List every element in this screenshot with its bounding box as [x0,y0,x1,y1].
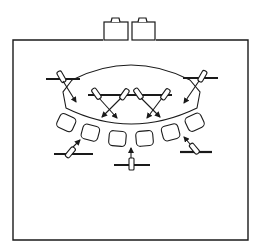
fixture [65,140,80,159]
seat [55,112,77,133]
fixture [91,87,117,118]
top-box-right [132,18,155,40]
seat [108,130,126,146]
diagram-canvas [0,0,260,249]
top-boxes [104,18,155,40]
seat [184,112,206,133]
fixture [102,88,130,117]
fixture [147,88,171,118]
seat [160,123,180,142]
seat [135,130,153,146]
fixture [133,87,160,117]
outer-frame [13,40,248,240]
fixture [56,70,76,102]
fixture [129,148,134,170]
seat [80,123,100,142]
fixture [184,70,208,103]
top-box-left [104,18,128,40]
